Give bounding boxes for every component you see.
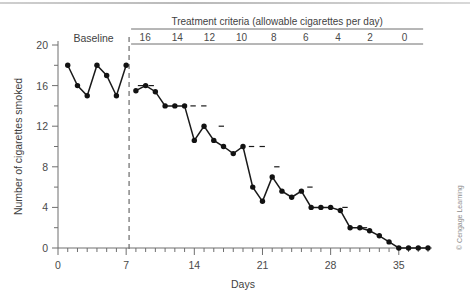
x-tick-label: 35: [393, 259, 405, 271]
criterion-label-4: 4: [335, 32, 341, 43]
data-point-treatment: [347, 225, 352, 230]
data-point-treatment: [182, 103, 187, 108]
data-point-treatment: [260, 199, 265, 204]
data-point-treatment: [240, 144, 245, 149]
data-point-treatment: [162, 103, 167, 108]
data-point-treatment: [328, 205, 333, 210]
data-point-treatment: [172, 103, 177, 108]
criteria-header-label: Treatment criteria (allowable cigarettes…: [171, 16, 382, 27]
data-point-treatment: [377, 233, 382, 238]
data-point-treatment: [299, 188, 304, 193]
criterion-label-10: 10: [236, 32, 248, 43]
x-tick-label: 14: [188, 259, 200, 271]
data-point-treatment: [279, 188, 284, 193]
criterion-label-2: 2: [367, 32, 373, 43]
copyright-credit: © Cengage Learning: [456, 185, 464, 250]
data-point-treatment: [308, 205, 313, 210]
criterion-label-8: 8: [271, 32, 277, 43]
data-point-treatment: [367, 228, 372, 233]
data-point-treatment: [425, 245, 430, 250]
data-point-treatment: [250, 184, 255, 189]
data-point-treatment: [406, 245, 411, 250]
data-point-treatment: [338, 208, 343, 213]
data-point-treatment: [270, 174, 275, 179]
criterion-label-16: 16: [140, 32, 152, 43]
data-point-baseline: [104, 73, 109, 78]
phase-label-baseline: Baseline: [73, 32, 113, 44]
data-point-baseline: [75, 83, 80, 88]
y-tick-label: 8: [42, 161, 48, 173]
data-point-treatment: [289, 195, 294, 200]
figure-canvas: 0481216200714212835DaysNumber of cigaret…: [0, 0, 470, 305]
data-line-baseline: [68, 65, 126, 95]
criterion-label-14: 14: [172, 32, 184, 43]
x-tick-label: 21: [257, 259, 269, 271]
data-point-treatment: [396, 245, 401, 250]
data-point-baseline: [94, 63, 99, 68]
x-axis-title: Days: [231, 278, 255, 290]
y-tick-label: 4: [42, 201, 48, 213]
data-point-treatment: [318, 205, 323, 210]
data-point-treatment: [153, 89, 158, 94]
criterion-label-12: 12: [204, 32, 216, 43]
data-point-baseline: [65, 63, 70, 68]
data-point-treatment: [211, 138, 216, 143]
data-point-treatment: [221, 144, 226, 149]
y-axis-title: Number of cigarettes smoked: [12, 78, 24, 215]
y-tick-label: 16: [36, 80, 48, 92]
line-chart: 0481216200714212835DaysNumber of cigaret…: [0, 0, 470, 305]
data-point-baseline: [114, 93, 119, 98]
data-point-baseline: [123, 63, 128, 68]
x-tick-label: 28: [325, 259, 337, 271]
x-tick-label: 0: [55, 259, 61, 271]
data-point-treatment: [416, 245, 421, 250]
data-point-treatment: [143, 83, 148, 88]
data-point-treatment: [133, 88, 138, 93]
x-tick-label: 7: [123, 259, 129, 271]
data-point-treatment: [231, 151, 236, 156]
data-point-treatment: [192, 138, 197, 143]
data-line-treatment: [136, 86, 428, 248]
y-tick-label: 20: [36, 39, 48, 51]
criterion-label-0: 0: [402, 32, 408, 43]
y-tick-label: 12: [36, 120, 48, 132]
data-point-treatment: [386, 239, 391, 244]
criterion-label-6: 6: [303, 32, 309, 43]
data-point-treatment: [201, 124, 206, 129]
y-tick-label: 0: [42, 242, 48, 254]
data-point-treatment: [357, 225, 362, 230]
data-point-baseline: [85, 93, 90, 98]
